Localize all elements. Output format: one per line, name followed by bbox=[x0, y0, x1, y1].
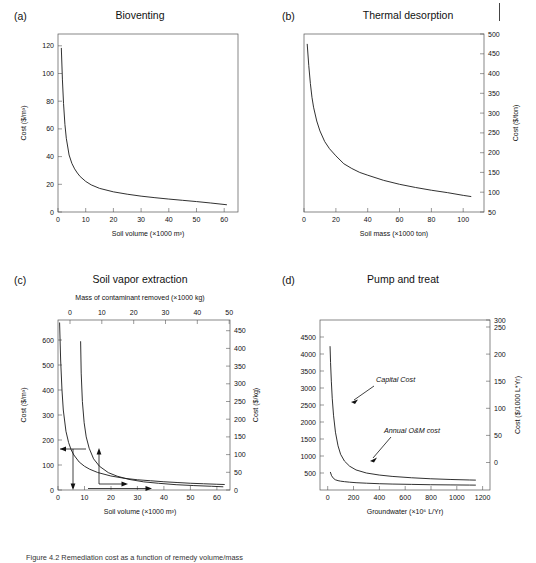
panel-a-y-ticks: 0 20 40 60 80 100 120 bbox=[42, 42, 62, 215]
x-tick-label: 30 bbox=[134, 494, 142, 501]
panel-c-title: Soil vapor extraction bbox=[50, 273, 230, 285]
y-tick-label-right: 450 bbox=[234, 327, 246, 334]
y-tick-label: 300 bbox=[488, 110, 500, 117]
x-tick-label: 600 bbox=[399, 494, 411, 501]
panel-d-x-ticks: 0 200 400 600 800 1000 1200 bbox=[326, 486, 491, 501]
y-tick-label: 200 bbox=[488, 149, 500, 156]
y-tick-label: 1000 bbox=[300, 453, 316, 460]
x-tick-label: 0 bbox=[56, 216, 60, 223]
y-tick-label: 4000 bbox=[300, 351, 316, 358]
x-tick-label: 40 bbox=[160, 494, 168, 501]
panel-b-x-ticks: 0 20 40 60 80 100 bbox=[302, 208, 469, 223]
panel-c-y-ticks-right: 0 50 100 150 200 250 300 350 400 450 bbox=[226, 327, 246, 493]
y-tick-label: 450 bbox=[488, 50, 500, 57]
y-tick-label: 50 bbox=[488, 209, 496, 216]
y-tick-label: 1500 bbox=[300, 436, 316, 443]
panel-d-y-axis-label-right: Cost ($/1000 L*Yr) bbox=[514, 376, 522, 434]
x-tick-label: 20 bbox=[332, 216, 340, 223]
y-tick-label: 0 bbox=[50, 209, 54, 216]
y-tick-label: 40 bbox=[46, 153, 54, 160]
y-tick-label: 300 bbox=[42, 412, 54, 419]
top-tick-label: 30 bbox=[162, 309, 170, 316]
top-tick-label: 40 bbox=[193, 309, 201, 316]
y-tick-label: 350 bbox=[488, 90, 500, 97]
panel-b-y-ticks: 50 100 150 200 250 300 350 400 450 500 bbox=[480, 31, 500, 216]
top-tick-label: 0 bbox=[68, 309, 72, 316]
x-tick-label: 60 bbox=[396, 216, 404, 223]
x-tick-label: 800 bbox=[425, 494, 437, 501]
y-tick-label-right: 300 bbox=[234, 380, 246, 387]
curve-bioventing bbox=[61, 48, 227, 205]
curve-svx-volume bbox=[60, 323, 225, 485]
y-tick-label: 600 bbox=[42, 337, 54, 344]
y-tick-label: 100 bbox=[488, 189, 500, 196]
panel-d-y-ticks-right: 0 50 100 150 200 250 300 bbox=[486, 317, 506, 467]
panel-a-x-axis-label: Soil volume (×1000 m³) bbox=[112, 230, 185, 238]
y-tick-label-right: 400 bbox=[234, 345, 246, 352]
panel-d-plot: 500 1000 1500 2000 2500 3000 3500 4000 4… bbox=[300, 317, 522, 517]
top-tick-label: 20 bbox=[130, 309, 138, 316]
panel-c-top-ticks: 0 10 20 30 40 50 bbox=[68, 309, 233, 324]
x-tick-label: 20 bbox=[110, 216, 118, 223]
x-tick-label: 10 bbox=[82, 216, 90, 223]
x-tick-label: 60 bbox=[220, 216, 228, 223]
y-tick-label-right: 200 bbox=[234, 416, 246, 423]
x-tick-label: 0 bbox=[56, 494, 60, 501]
panel-d-letter: (d) bbox=[282, 274, 295, 286]
y-tick-label-right: 200 bbox=[494, 351, 506, 358]
x-tick-label: 100 bbox=[457, 216, 469, 223]
y-tick-label-right: 50 bbox=[494, 432, 502, 439]
y-tick-label-right: 50 bbox=[234, 469, 242, 476]
y-tick-label: 20 bbox=[46, 181, 54, 188]
panel-d-annotation-om: Annual O&M cost bbox=[370, 426, 441, 463]
y-tick-label-right: 100 bbox=[494, 405, 506, 412]
x-tick-label: 30 bbox=[137, 216, 145, 223]
y-tick-label: 0 bbox=[50, 487, 54, 494]
figure-caption: Figure 4.2 Remediation cost as a functio… bbox=[26, 553, 506, 563]
panel-b-plot: 50 100 150 200 250 300 350 400 450 500 bbox=[302, 31, 520, 239]
panel-c-axis-arrows bbox=[60, 447, 152, 491]
panel-d-annotation-capital: Capital Cost bbox=[351, 375, 416, 404]
panel-c-y-ticks-left: 0 100 200 300 400 500 600 bbox=[42, 337, 62, 494]
y-tick-label: 3500 bbox=[300, 368, 316, 375]
x-tick-label: 10 bbox=[81, 494, 89, 501]
x-tick-label: 200 bbox=[348, 494, 360, 501]
panel-a-title: Bioventing bbox=[60, 9, 220, 21]
x-tick-label: 20 bbox=[107, 494, 115, 501]
panel-c-x-axis-label: Soil volume (×1000 m³) bbox=[104, 508, 177, 516]
y-tick-label-right: 300 bbox=[494, 317, 506, 324]
y-tick-label: 3000 bbox=[300, 385, 316, 392]
x-tick-label: 80 bbox=[428, 216, 436, 223]
y-tick-label: 500 bbox=[42, 362, 54, 369]
x-tick-label: 1000 bbox=[449, 494, 465, 501]
top-tick-label: 10 bbox=[98, 309, 106, 316]
x-tick-label: 50 bbox=[193, 216, 201, 223]
curve-capital-cost bbox=[330, 346, 476, 480]
y-tick-label-right: 150 bbox=[494, 378, 506, 385]
y-tick-label: 2000 bbox=[300, 419, 316, 426]
curve-svx-mass bbox=[81, 341, 224, 487]
y-tick-label: 400 bbox=[42, 387, 54, 394]
x-tick-label: 0 bbox=[302, 216, 306, 223]
panel-b-x-axis-label: Soil mass (×1000 ton) bbox=[360, 230, 428, 238]
curve-annual-om-cost bbox=[330, 472, 476, 485]
x-tick-label: 40 bbox=[165, 216, 173, 223]
y-tick-label: 500 bbox=[304, 470, 316, 477]
y-tick-label: 400 bbox=[488, 70, 500, 77]
x-tick-label: 50 bbox=[187, 494, 195, 501]
y-tick-label: 150 bbox=[488, 169, 500, 176]
top-tick-label: 50 bbox=[225, 309, 233, 316]
y-tick-label-right: 0 bbox=[234, 487, 238, 494]
curve-thermal-desorption bbox=[307, 44, 471, 197]
y-tick-label: 60 bbox=[46, 125, 54, 132]
y-tick-label: 120 bbox=[42, 42, 54, 49]
y-tick-label: 200 bbox=[42, 437, 54, 444]
panel-d: (d) Pump and treat 500 1000 bbox=[268, 266, 536, 541]
panel-b-title: Thermal desorption bbox=[318, 9, 498, 21]
panel-a-y-axis-label: Cost ($/m³) bbox=[20, 106, 28, 141]
x-tick-label: 1200 bbox=[475, 494, 491, 501]
x-tick-label: 40 bbox=[364, 216, 372, 223]
panel-a: (a) Bioventing 0 20 40 60 80 bbox=[0, 0, 268, 262]
panel-b-y-axis-label: Cost ($/ton) bbox=[512, 105, 520, 142]
